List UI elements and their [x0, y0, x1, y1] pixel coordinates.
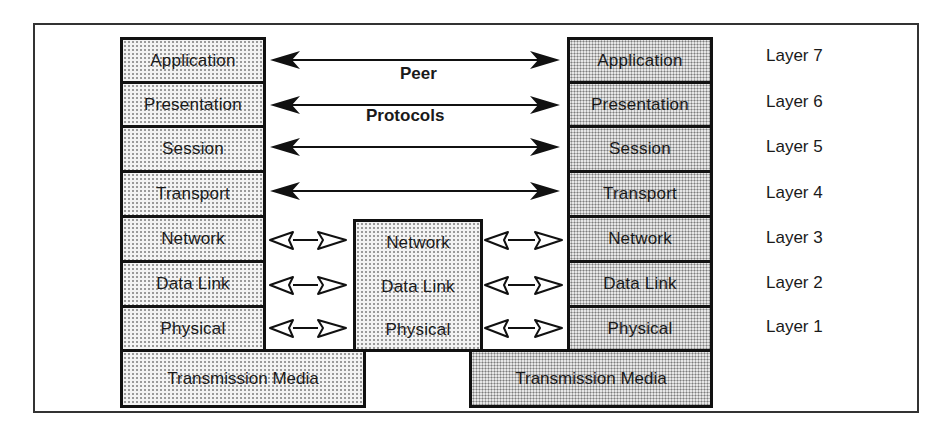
hop-arrow-left-network: [270, 232, 346, 249]
layer-label-5: Layer 5: [766, 137, 823, 157]
arrows-layer: [0, 0, 951, 440]
peer-arrow-session: [270, 138, 560, 156]
layer-label-1: Layer 1: [766, 317, 823, 337]
layer-label-3: Layer 3: [766, 228, 823, 248]
hop-arrow-right-data-link: [485, 277, 562, 294]
peer-label: Peer: [400, 64, 437, 84]
protocols-label: Protocols: [366, 106, 444, 126]
layer-label-2: Layer 2: [766, 273, 823, 293]
hop-arrow-right-physical: [485, 320, 562, 337]
hop-arrow-right-network: [485, 232, 562, 249]
layer-label-6: Layer 6: [766, 92, 823, 112]
layer-label-4: Layer 4: [766, 183, 823, 203]
hop-arrow-left-physical: [270, 320, 346, 337]
peer-arrow-transport: [270, 182, 560, 200]
hop-arrow-left-data-link: [270, 277, 346, 294]
layer-label-7: Layer 7: [766, 46, 823, 66]
